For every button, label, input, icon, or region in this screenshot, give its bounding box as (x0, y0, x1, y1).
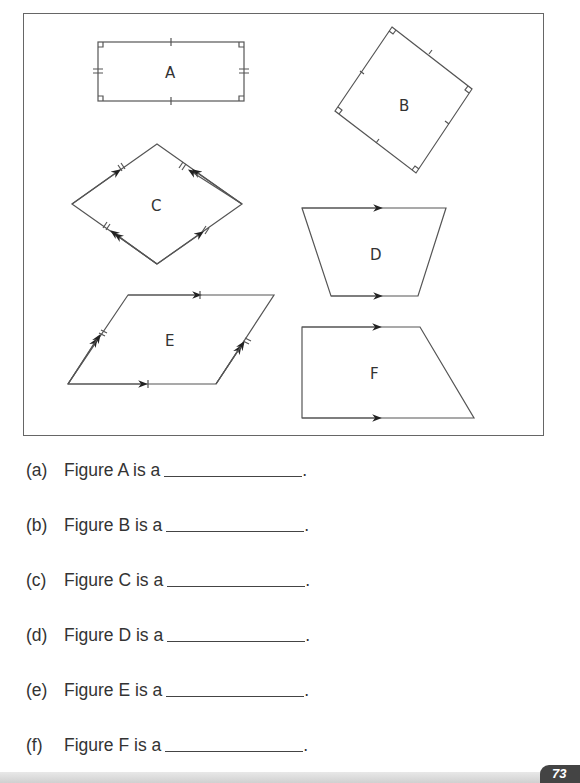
page-number: 73 (540, 765, 580, 783)
question-number: (c) (26, 570, 64, 591)
figure-f-trapezium (302, 327, 474, 418)
footer-bar (0, 772, 573, 783)
answer-blank-e[interactable] (166, 682, 304, 697)
question-number: (e) (26, 680, 64, 701)
question-text: Figure E is a (64, 680, 162, 701)
question-text: Figure C is a (64, 570, 163, 591)
question-e: (e) Figure E is a . (26, 680, 309, 701)
question-d: (d) Figure D is a . (26, 625, 310, 646)
figure-e-label: E (165, 332, 174, 350)
question-f: (f) Figure F is a . (26, 735, 308, 756)
question-text: Figure F is a (64, 735, 161, 756)
figure-f-label: F (370, 365, 379, 383)
question-number: (d) (26, 625, 64, 646)
question-text: Figure A is a (64, 460, 160, 481)
question-text: Figure D is a (64, 625, 163, 646)
figures-canvas: A B C D E F (0, 0, 573, 440)
answer-blank-a[interactable] (164, 462, 302, 477)
question-text: Figure B is a (64, 515, 162, 536)
answer-blank-f[interactable] (165, 737, 303, 752)
question-number: (b) (26, 515, 64, 536)
question-b: (b) Figure B is a . (26, 515, 309, 536)
question-number: (f) (26, 735, 64, 756)
figure-d-label: D (370, 246, 382, 264)
question-a: (a) Figure A is a . (26, 460, 307, 481)
answer-blank-b[interactable] (166, 517, 304, 532)
figure-a-label: A (165, 64, 176, 82)
answer-blank-c[interactable] (167, 572, 305, 587)
figure-c-label: C (151, 197, 161, 215)
question-c: (c) Figure C is a . (26, 570, 310, 591)
answer-blank-d[interactable] (167, 627, 305, 642)
figure-b-label: B (399, 97, 409, 115)
question-number: (a) (26, 460, 64, 481)
